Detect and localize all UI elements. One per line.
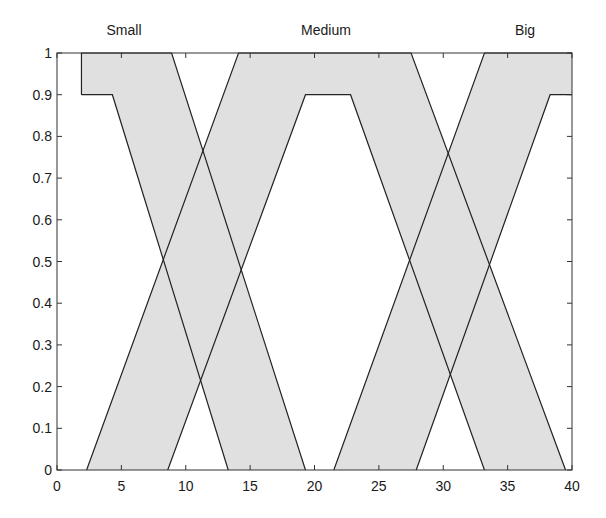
y-tick-label: 0.4	[33, 295, 52, 311]
x-tick-label: 25	[371, 478, 387, 494]
x-tick-label: 0	[53, 478, 61, 494]
y-tick-label: 0.2	[33, 379, 52, 395]
x-tick-label: 40	[564, 478, 580, 494]
y-tick-label: 0	[44, 462, 52, 478]
chart-canvas	[0, 0, 606, 518]
x-tick-label: 30	[435, 478, 451, 494]
x-tick-label: 15	[242, 478, 258, 494]
y-tick-label: 0.5	[33, 254, 52, 270]
label-small: Small	[106, 22, 141, 38]
membership-bands	[81, 53, 572, 470]
x-tick-label: 35	[500, 478, 516, 494]
x-tick-label: 10	[178, 478, 194, 494]
y-tick-label: 0.7	[33, 170, 52, 186]
y-tick-label: 0.9	[33, 87, 52, 103]
y-tick-label: 0.3	[33, 337, 52, 353]
label-medium: Medium	[301, 22, 351, 38]
y-tick-label: 0.1	[33, 420, 52, 436]
y-tick-label: 0.8	[33, 128, 52, 144]
y-tick-label: 0.6	[33, 212, 52, 228]
y-tick-label: 1	[44, 45, 52, 61]
x-tick-label: 5	[117, 478, 125, 494]
x-tick-label: 20	[307, 478, 323, 494]
label-big: Big	[515, 22, 535, 38]
